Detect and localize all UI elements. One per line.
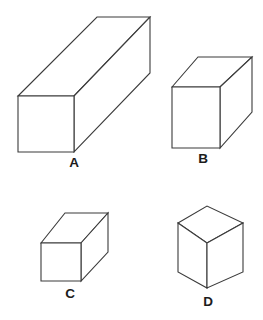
shape-b-front-face	[172, 87, 220, 148]
shape-d-group: D	[178, 206, 243, 309]
shape-a-group: A	[18, 17, 150, 170]
shape-b-label: B	[198, 151, 208, 166]
shape-c-label: C	[65, 286, 75, 301]
shape-d-label: D	[203, 294, 213, 309]
shape-c-group: C	[41, 213, 108, 301]
shape-b-group: B	[172, 57, 252, 166]
shape-c-front-face	[41, 243, 81, 281]
shape-a-front-face	[18, 96, 74, 152]
figure-canvas: A B C D	[0, 0, 263, 320]
shapes-diagram: A B C D	[0, 0, 263, 320]
shape-a-label: A	[69, 155, 79, 170]
